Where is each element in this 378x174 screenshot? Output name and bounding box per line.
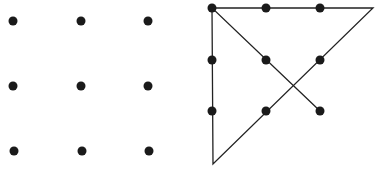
solved-dot-1: [208, 4, 217, 13]
unsolved-dot-9: [145, 147, 154, 156]
solved-dot-3: [316, 4, 325, 13]
solved-dot-6: [316, 56, 325, 65]
solved-dot-grid: [208, 4, 374, 165]
solved-dot-2: [262, 4, 271, 13]
unsolved-dot-4: [9, 82, 18, 91]
solved-dot-8: [262, 107, 271, 116]
unsolved-dot-3: [144, 17, 153, 26]
unsolved-dot-grid: [9, 17, 154, 156]
solved-dot-9: [316, 107, 325, 116]
solved-dot-4: [208, 56, 217, 65]
unsolved-dot-6: [144, 82, 153, 91]
unsolved-dot-2: [77, 17, 86, 26]
nine-dots-diagram: [0, 0, 378, 174]
solution-path-lines: [212, 8, 373, 164]
unsolved-dot-5: [77, 82, 86, 91]
unsolved-dot-7: [10, 147, 19, 156]
unsolved-dot-1: [9, 17, 18, 26]
solved-dot-5: [262, 56, 271, 65]
solved-dot-7: [208, 107, 217, 116]
unsolved-dot-8: [78, 147, 87, 156]
